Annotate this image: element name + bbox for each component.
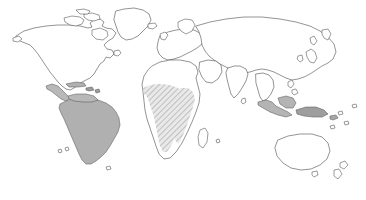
region-borneo-sulawesi-fill — [278, 96, 296, 108]
region-lesser-antilles-fill — [95, 89, 100, 93]
landmass-southeast-asia — [256, 73, 274, 101]
region-south-america-highlight — [59, 98, 120, 164]
landmass-india — [226, 66, 248, 98]
landmass-arctic-island-far — [76, 9, 90, 14]
region-indonesia-new-guinea-highlight — [258, 96, 338, 120]
world-map-container: World Distribution Map — [0, 0, 366, 200]
landmass-pacific-island-d — [352, 104, 357, 108]
landmass-australia — [275, 134, 330, 170]
landmass-arabia — [199, 60, 222, 83]
landmass-pacific-island-c — [330, 125, 335, 129]
landmass-pacific-island-a — [338, 111, 343, 115]
landmass-pacific-island-b — [344, 121, 349, 125]
landmass-iceland — [148, 23, 157, 29]
landmass-greenland — [114, 8, 151, 40]
landmass-philippines-south — [292, 89, 298, 95]
landmass-newfoundland — [114, 50, 121, 56]
landmass-atlantic-island — [58, 149, 62, 153]
landmass-south-atlantic-island — [65, 147, 69, 151]
landmass-philippines-north — [288, 80, 294, 88]
landmass-indian-ocean-island — [216, 139, 220, 143]
landmass-new-zealand-south — [334, 169, 342, 179]
landmass-madagascar — [198, 128, 208, 148]
landmass-arctic-islands-west — [64, 16, 84, 26]
world-map-svg — [0, 0, 366, 200]
region-solomon-islands-fill — [330, 115, 338, 120]
region-new-guinea-fill — [296, 107, 328, 117]
region-hispaniola-fill — [86, 87, 94, 91]
landmass-falklands — [106, 166, 111, 170]
landmass-tasmania — [312, 171, 318, 177]
landmass-new-zealand-north — [340, 161, 348, 169]
region-central-america-caribbean-highlight — [46, 82, 100, 102]
landmass-sri-lanka — [241, 98, 246, 104]
